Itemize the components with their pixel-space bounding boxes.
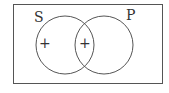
set-p-label: P	[126, 7, 135, 23]
s-only-plus-mark: +	[39, 35, 51, 51]
venn-diagram: S P + +	[0, 0, 169, 93]
intersection-plus-mark: +	[79, 35, 91, 51]
set-s-label: S	[34, 9, 44, 25]
